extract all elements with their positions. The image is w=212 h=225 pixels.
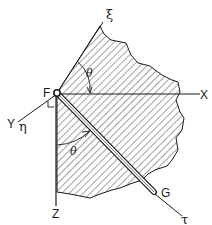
label-f: F [43,86,50,100]
diagram-canvas: ξ θ F X Y η θ G Z τ [0,0,212,225]
label-y: Y [7,117,15,131]
right-angle-mark [48,101,54,107]
pivot-f [54,90,60,96]
label-xi: ξ [106,7,113,22]
label-g: G [161,186,170,200]
label-eta: η [19,119,27,134]
label-theta-top: θ [86,67,93,80]
y-eta-axis [18,94,57,122]
label-z: Z [52,207,59,221]
label-theta-bottom: θ [70,145,77,158]
label-tau: τ [181,212,188,225]
label-x: X [200,88,208,102]
